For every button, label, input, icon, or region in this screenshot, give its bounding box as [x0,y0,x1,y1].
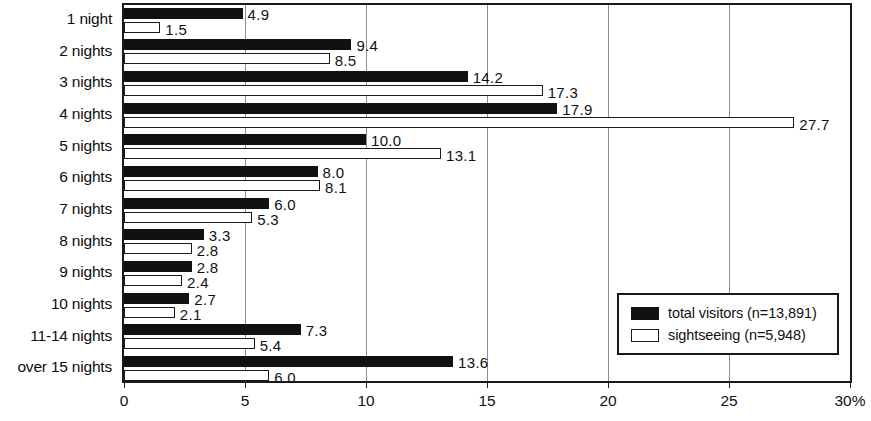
bar-value-total-visitors: 10.0 [371,133,401,148]
bar-total-visitors [124,324,301,335]
bar-value-total-visitors: 8.0 [323,165,345,180]
bar-value-sightseeing: 2.1 [180,307,202,322]
bar-group: 8.08.1 [124,163,850,195]
tick-label: 5 [241,393,250,409]
category-label: 1 night [0,11,112,27]
bar-group: 3.32.8 [124,227,850,259]
tick-mark [124,383,125,388]
bar-group: 14.217.3 [124,68,850,100]
tick-mark [608,383,609,388]
bar-sightseeing [124,85,543,96]
bar-group: 6.05.3 [124,195,850,227]
bar-sightseeing [124,370,269,381]
bar-sightseeing [124,117,794,128]
bar-value-total-visitors: 4.9 [248,7,270,22]
bar-total-visitors [124,166,318,177]
legend-label-sightseeing: sightseeing (n=5,948) [668,328,806,343]
tick-mark [245,383,246,388]
bar-group: 17.927.7 [124,100,850,132]
legend-label-total-visitors: total visitors (n=13,891) [668,306,817,321]
bar-value-sightseeing: 1.5 [165,22,187,37]
bar-sightseeing [124,307,175,318]
bar-value-total-visitors: 9.4 [356,38,378,53]
category-label: 4 nights [0,106,112,122]
tick-label: 0 [120,393,129,409]
bar-group: 4.91.5 [124,5,850,37]
legend-swatch-total-visitors [631,307,659,320]
bar-value-total-visitors: 17.9 [562,102,592,117]
bar-value-total-visitors: 7.3 [306,323,328,338]
tick-label: 10 [357,393,374,409]
category-label: 6 nights [0,169,112,185]
category-axis: 1 night2 nights3 nights4 nights5 nights6… [0,3,117,383]
bar-sightseeing [124,53,330,64]
bar-value-total-visitors: 14.2 [473,70,503,85]
category-label: 9 nights [0,264,112,280]
bar-value-sightseeing: 13.1 [446,148,476,163]
tick-label: 25 [720,393,737,409]
bar-sightseeing [124,275,182,286]
bar-value-total-visitors: 3.3 [209,228,231,243]
bar-value-sightseeing: 5.3 [257,212,279,227]
category-label: over 15 nights [0,359,112,375]
category-label: 5 nights [0,138,112,154]
bar-sightseeing [124,212,252,223]
bar-total-visitors [124,198,269,209]
bar-group: 2.82.4 [124,258,850,290]
bar-sightseeing [124,148,441,159]
bar-sightseeing [124,338,255,349]
bar-value-sightseeing: 2.4 [187,275,209,290]
bar-total-visitors [124,261,192,272]
bar-group: 10.013.1 [124,132,850,164]
bar-sightseeing [124,243,192,254]
bar-total-visitors [124,134,366,145]
bar-value-sightseeing: 2.8 [197,243,219,258]
bar-total-visitors [124,229,204,240]
category-label: 2 nights [0,43,112,59]
tick-mark [366,383,367,388]
bar-value-sightseeing: 8.5 [335,53,357,68]
horizontal-bar-chart: 1 night2 nights3 nights4 nights5 nights6… [0,0,871,421]
bar-value-total-visitors: 6.0 [274,197,296,212]
bar-value-sightseeing: 17.3 [548,85,578,100]
bar-total-visitors [124,293,189,304]
bar-total-visitors [124,8,243,19]
category-label: 10 nights [0,296,112,312]
category-label: 7 nights [0,201,112,217]
bar-value-sightseeing: 8.1 [325,180,347,195]
value-axis: 051015202530% [122,383,852,421]
tick-mark [729,383,730,388]
category-label: 3 nights [0,74,112,90]
bar-sightseeing [124,22,160,33]
bar-group: 9.48.5 [124,37,850,69]
bar-value-total-visitors: 13.6 [458,355,488,370]
tick-mark [487,383,488,388]
bar-total-visitors [124,103,557,114]
legend-item-sightseeing: sightseeing (n=5,948) [631,324,837,346]
legend-swatch-sightseeing [631,329,659,342]
category-label: 8 nights [0,233,112,249]
bar-value-total-visitors: 2.8 [197,260,219,275]
bar-value-total-visitors: 2.7 [194,292,216,307]
tick-label: 20 [599,393,616,409]
bar-value-sightseeing: 5.4 [260,338,282,353]
category-label: 11-14 nights [0,328,112,344]
tick-mark [850,383,851,388]
bar-sightseeing [124,180,320,191]
bar-total-visitors [124,39,351,50]
bar-group: 13.66.0 [124,353,850,385]
legend-item-total-visitors: total visitors (n=13,891) [631,302,837,324]
tick-label: 15 [478,393,495,409]
bar-total-visitors [124,71,468,82]
bar-total-visitors [124,356,453,367]
bar-value-sightseeing: 27.7 [799,117,829,132]
chart-legend: total visitors (n=13,891) sightseeing (n… [617,293,839,355]
tick-label: 30% [834,393,865,409]
